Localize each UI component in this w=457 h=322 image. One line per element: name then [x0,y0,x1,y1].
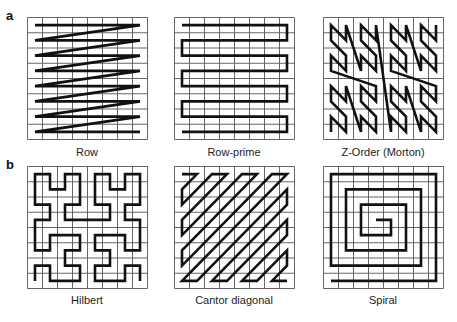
curve-grid-svg [174,17,295,140]
panel-label-b: b [6,157,14,172]
z-order-curve-label: Z-Order (Morton) [303,146,457,158]
panel-label-a: a [6,8,13,23]
curve-grid-svg [323,166,444,289]
row-curve-label: Row [7,146,167,158]
z-order-curve-diagram [323,17,443,139]
curve-grid-svg [27,17,148,140]
curve-grid-svg [174,166,295,289]
curve-grid-svg [27,166,148,289]
cantor-diagonal-curve-label: Cantor diagonal [154,294,314,306]
row-curve-diagram [27,17,147,139]
spiral-curve-diagram [323,166,443,288]
spiral-curve-label: Spiral [303,294,457,306]
row-prime-curve-label: Row-prime [154,146,314,158]
cantor-diagonal-curve-diagram [174,166,294,288]
row-prime-curve-diagram [174,17,294,139]
hilbert-curve-label: Hilbert [7,294,167,306]
curve-grid-svg [323,17,444,140]
hilbert-curve-diagram [27,166,147,288]
